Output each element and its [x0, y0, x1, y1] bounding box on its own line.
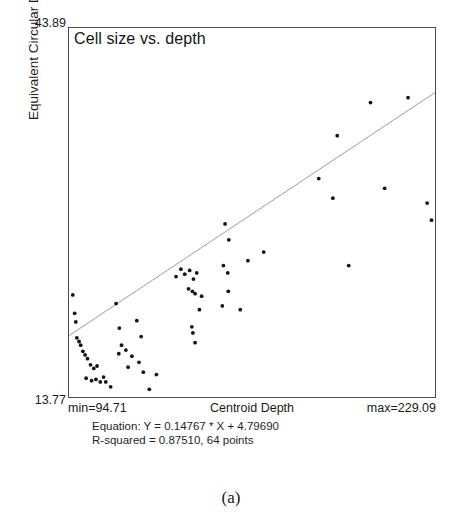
- data-point: [335, 134, 339, 138]
- data-point: [425, 201, 429, 205]
- data-point: [191, 331, 195, 335]
- data-point: [155, 373, 159, 377]
- data-point: [90, 379, 94, 383]
- data-point: [198, 308, 202, 312]
- data-point: [223, 222, 227, 226]
- data-point: [193, 292, 197, 296]
- x-axis-max-label: max=229.09: [367, 400, 436, 417]
- y-axis-title: Equivalent Circular Diameter: [26, 0, 42, 120]
- r-squared-label: R-squared = 0.87510, 64 points: [92, 433, 279, 447]
- data-point: [220, 304, 224, 308]
- y-axis-min-label: 13.77: [35, 393, 66, 407]
- x-axis-labels: min=94.71 Centroid Depth max=229.09: [68, 400, 436, 418]
- equation-label: Equation: Y = 0.14767 * X + 4.79690: [92, 419, 279, 433]
- data-point: [117, 326, 121, 330]
- data-point: [179, 267, 183, 271]
- data-point: [130, 354, 134, 358]
- regression-stats: Equation: Y = 0.14767 * X + 4.79690 R-sq…: [92, 419, 279, 447]
- figure-caption: (a): [0, 488, 462, 508]
- data-point: [126, 365, 130, 369]
- data-point: [141, 370, 145, 374]
- data-point: [369, 101, 373, 105]
- data-point: [200, 294, 204, 298]
- data-point: [222, 264, 226, 268]
- data-point: [109, 385, 113, 389]
- data-point: [331, 196, 335, 200]
- data-point: [406, 96, 410, 100]
- data-point: [74, 320, 78, 324]
- data-point: [188, 269, 192, 273]
- data-point: [383, 186, 387, 190]
- chart-title: Cell size vs. depth: [74, 29, 206, 49]
- data-point: [75, 336, 79, 340]
- data-point: [114, 302, 118, 306]
- scatter-plot-canvas: [69, 28, 435, 397]
- data-point: [262, 250, 266, 254]
- data-point: [95, 364, 99, 368]
- data-point: [135, 319, 139, 323]
- data-point: [81, 349, 85, 353]
- data-point: [238, 308, 242, 312]
- data-point: [190, 325, 194, 329]
- x-axis-title: Centroid Depth: [210, 400, 294, 417]
- data-point: [147, 387, 151, 391]
- data-point: [117, 352, 121, 356]
- data-point: [187, 287, 191, 291]
- data-point: [83, 353, 87, 357]
- data-point: [226, 289, 230, 293]
- data-point: [317, 177, 321, 181]
- data-point: [84, 376, 88, 380]
- data-point: [137, 360, 141, 364]
- data-point: [183, 272, 187, 276]
- data-point: [347, 264, 351, 268]
- regression-line: [69, 93, 435, 336]
- data-point: [192, 277, 196, 281]
- data-point: [89, 363, 93, 367]
- data-point: [77, 340, 81, 344]
- data-point: [430, 218, 434, 222]
- data-point: [227, 238, 231, 242]
- data-point: [193, 341, 197, 345]
- data-point: [195, 271, 199, 275]
- x-axis-min-label: min=94.71: [68, 400, 127, 417]
- data-point: [226, 271, 230, 275]
- data-point: [73, 311, 77, 315]
- data-point: [174, 275, 178, 279]
- data-point: [98, 380, 102, 384]
- data-point: [79, 343, 83, 347]
- figure-container: 43.89 13.77 Equivalent Circular Diameter…: [0, 0, 462, 526]
- plot-area: [68, 27, 436, 398]
- data-point: [104, 380, 108, 384]
- data-point: [92, 367, 96, 371]
- data-point: [102, 375, 106, 379]
- data-point: [71, 293, 75, 297]
- data-point: [86, 357, 90, 361]
- data-point: [124, 348, 128, 352]
- data-point: [246, 259, 250, 263]
- data-point: [94, 378, 98, 382]
- data-point: [139, 335, 143, 339]
- data-point: [120, 343, 124, 347]
